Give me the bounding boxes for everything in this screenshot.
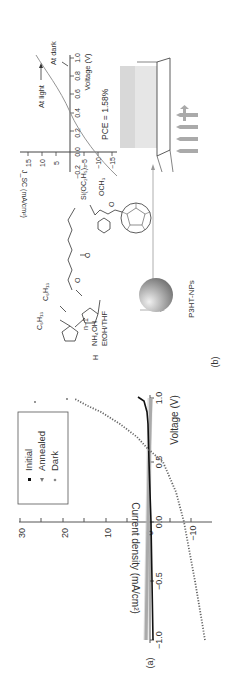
legend-initial: Initial bbox=[23, 449, 34, 471]
voltage-axis-label: Voltage (V) bbox=[169, 395, 180, 444]
svg-text:0.4: 0.4 bbox=[74, 108, 81, 118]
figure-canvas: 30 20 10 0 −10 −1.0 −0.5 0.0 0.5 1.0 Cur… bbox=[0, 0, 232, 681]
panel-a-chart: 30 20 10 0 −10 −1.0 −0.5 0.0 0.5 1.0 Cur… bbox=[17, 392, 212, 669]
chem-o-1: O bbox=[74, 277, 81, 283]
panel-b-label: (b) bbox=[210, 356, 220, 367]
legend-annealed: Annealed bbox=[36, 431, 47, 471]
chem-o-2: O bbox=[84, 252, 91, 258]
voltage-tick-labels: −1.0 −0.5 0.0 0.5 1.0 bbox=[154, 392, 164, 649]
legend-dark: Dark bbox=[49, 451, 60, 471]
svg-text:0.0: 0.0 bbox=[74, 147, 81, 157]
annotation-at-dark: At dark bbox=[49, 41, 58, 65]
inset-voltage-label: Voltage (V) bbox=[83, 53, 92, 91]
ytick-30: 30 bbox=[17, 528, 27, 538]
pce-value: PCE = 1.58% bbox=[100, 88, 110, 140]
legend-initial-marker bbox=[28, 478, 31, 481]
reagent-nh4oh: NH₄OH bbox=[90, 321, 99, 346]
chem-c6h13-b: C₆H₁₃ bbox=[42, 283, 49, 301]
device-illustration bbox=[120, 58, 198, 172]
current-ticks bbox=[20, 518, 191, 522]
xtick-1: 1.0 bbox=[154, 392, 164, 405]
svg-text:0.8: 0.8 bbox=[74, 71, 81, 81]
xtick-neg1: −1.0 bbox=[154, 631, 164, 649]
molecule-structure bbox=[60, 205, 122, 341]
xtick-neg05: −0.5 bbox=[154, 572, 164, 590]
p3ht-nanoparticle bbox=[139, 278, 173, 312]
reagent-etoh-thf: EtOH/THF bbox=[100, 311, 109, 346]
chem-n-1: n−1 bbox=[82, 318, 89, 330]
svg-text:15: 15 bbox=[25, 159, 32, 167]
svg-text:5: 5 bbox=[53, 161, 60, 165]
ytick-20: 20 bbox=[60, 528, 70, 538]
legend: Initial Annealed Dark bbox=[18, 412, 68, 504]
panel-b: (b) 15 10 5 bbox=[20, 41, 220, 368]
svg-text:0.2: 0.2 bbox=[74, 128, 81, 138]
svg-text:−15: −15 bbox=[109, 157, 116, 169]
svg-text:1.0: 1.0 bbox=[74, 53, 81, 63]
xtick-05: 0.5 bbox=[154, 456, 164, 469]
chem-och3: OCH₃ bbox=[98, 177, 105, 196]
inset-voltage-tick-labels: −0.2 0.0 0.2 0.4 0.6 0.8 1.0 bbox=[74, 53, 81, 179]
current-tick-labels: 30 20 10 0 −10 bbox=[17, 525, 198, 540]
svg-text:10: 10 bbox=[39, 159, 46, 167]
fullerene-c60 bbox=[121, 203, 151, 233]
xtick-0: 0.0 bbox=[154, 516, 164, 529]
ytick-neg10: −10 bbox=[188, 525, 198, 540]
figure: 30 20 10 0 −10 −1.0 −0.5 0.0 0.5 1.0 Cur… bbox=[0, 0, 232, 681]
chem-silane: Si(OC₂H₅)₃ bbox=[80, 165, 88, 200]
annotation-at-light: At light bbox=[37, 84, 46, 108]
chem-c6h13-a: C₆H₁₃ bbox=[36, 312, 43, 330]
chem-o-3: O bbox=[108, 201, 115, 207]
chem-h: H bbox=[92, 355, 99, 360]
nanoparticle-label: P3HT-NPs bbox=[187, 280, 196, 318]
legend-dark-marker bbox=[54, 479, 57, 482]
current-axis-label: Current density (mA/cm²) bbox=[130, 502, 141, 614]
ytick-10: 10 bbox=[103, 528, 113, 538]
panel-a-label: (a) bbox=[145, 657, 155, 668]
inset-current-label: J_SC (mA/cm²) bbox=[20, 170, 28, 218]
svg-text:0.6: 0.6 bbox=[74, 89, 81, 99]
